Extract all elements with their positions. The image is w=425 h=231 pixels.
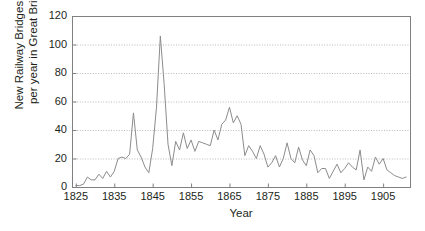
chart-figure: New Railway Bridges built per year in Gr…: [0, 0, 425, 231]
plot-canvas: [0, 0, 425, 231]
x-axis-title: Year: [72, 207, 410, 219]
data-series-line: [76, 36, 406, 186]
